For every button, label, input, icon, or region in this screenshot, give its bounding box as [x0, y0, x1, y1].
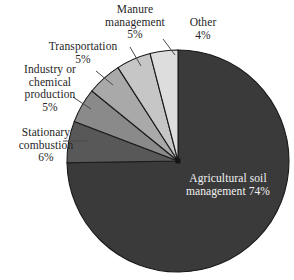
slice-label-transportation: Transportation 5% — [33, 40, 133, 65]
slice-label-line2: combustion — [19, 139, 74, 151]
slice-label-percent: 74% — [249, 185, 270, 197]
slice-label-stationary-combustion: Stationary combustion 6% — [1, 126, 91, 164]
slice-label-line2: management — [105, 16, 165, 28]
slice-label-line1: Other — [190, 16, 217, 28]
slice-label-percent: 5% — [4, 101, 96, 114]
slice-label-agricultural-soil-management: Agricultural soil management 74% — [172, 172, 284, 198]
slice-label-line3: production — [25, 88, 76, 100]
slice-label-other: Other 4% — [173, 16, 233, 41]
slice-label-line1: Industry or — [24, 63, 76, 75]
pie-center-marker — [176, 159, 181, 164]
slice-label-line2: chemical — [29, 76, 71, 88]
slice-label-line1: Transportation — [49, 40, 118, 52]
slice-label-line1: Manure — [117, 3, 153, 15]
slice-label-line1: Agricultural soil — [189, 172, 266, 184]
slice-label-line1: Stationary — [22, 126, 70, 138]
slice-label-industry-or-chemical-production: Industry or chemical production 5% — [4, 63, 96, 113]
slice-label-percent: 5% — [92, 28, 178, 41]
slice-label-percent: 4% — [173, 29, 233, 42]
pie-chart: Manure management 5% Other 4% Transporta… — [0, 0, 294, 280]
slice-label-manure-management: Manure management 5% — [92, 3, 178, 41]
slice-label-percent: 6% — [1, 151, 91, 164]
slice-label-line2: management — [186, 185, 246, 197]
